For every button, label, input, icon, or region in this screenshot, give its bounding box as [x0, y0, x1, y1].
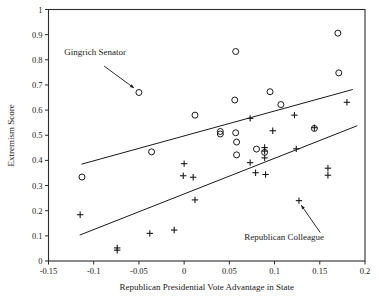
y-tick-label: 0.4 [32, 155, 43, 165]
y-tick-label: 1 [38, 5, 42, 15]
chart-canvas: -0.15-0.1-0.0500.050.10.150.2 00.10.20.3… [0, 0, 379, 299]
y-tick-label: 0.2 [32, 206, 43, 216]
y-tick-label: 0.3 [32, 181, 43, 191]
y-axis-title: Extremism Score [6, 104, 16, 166]
x-tick-label: 0.1 [269, 266, 280, 276]
x-tick-label: 0.05 [222, 266, 237, 276]
annotation-label-gingrich-senator: Gingrich Senator [64, 47, 126, 57]
x-tick-label: -0.05 [130, 266, 148, 276]
scatter-plot-figure: -0.15-0.1-0.0500.050.10.150.2 00.10.20.3… [0, 0, 379, 299]
y-tick-label: 0.1 [32, 231, 43, 241]
y-tick-label: 0.6 [32, 105, 43, 115]
y-tick-label: 0.7 [32, 80, 43, 90]
x-tick-label: 0.2 [360, 266, 371, 276]
x-tick-label: -0.15 [40, 266, 58, 276]
y-tick-label: 0.9 [32, 30, 43, 40]
x-tick-label: 0 [182, 266, 186, 276]
x-axis-title: Republican Presidential Vote Advantage i… [120, 282, 294, 292]
y-tick-label: 0 [38, 256, 42, 266]
x-tick-label: 0.15 [312, 266, 327, 276]
x-tick-label: -0.1 [87, 266, 100, 276]
y-tick-label: 0.5 [32, 130, 43, 140]
chart-background [0, 0, 379, 299]
y-tick-label: 0.8 [32, 55, 43, 65]
annotation-label-republican-colleague: Republican Colleague [244, 232, 324, 242]
